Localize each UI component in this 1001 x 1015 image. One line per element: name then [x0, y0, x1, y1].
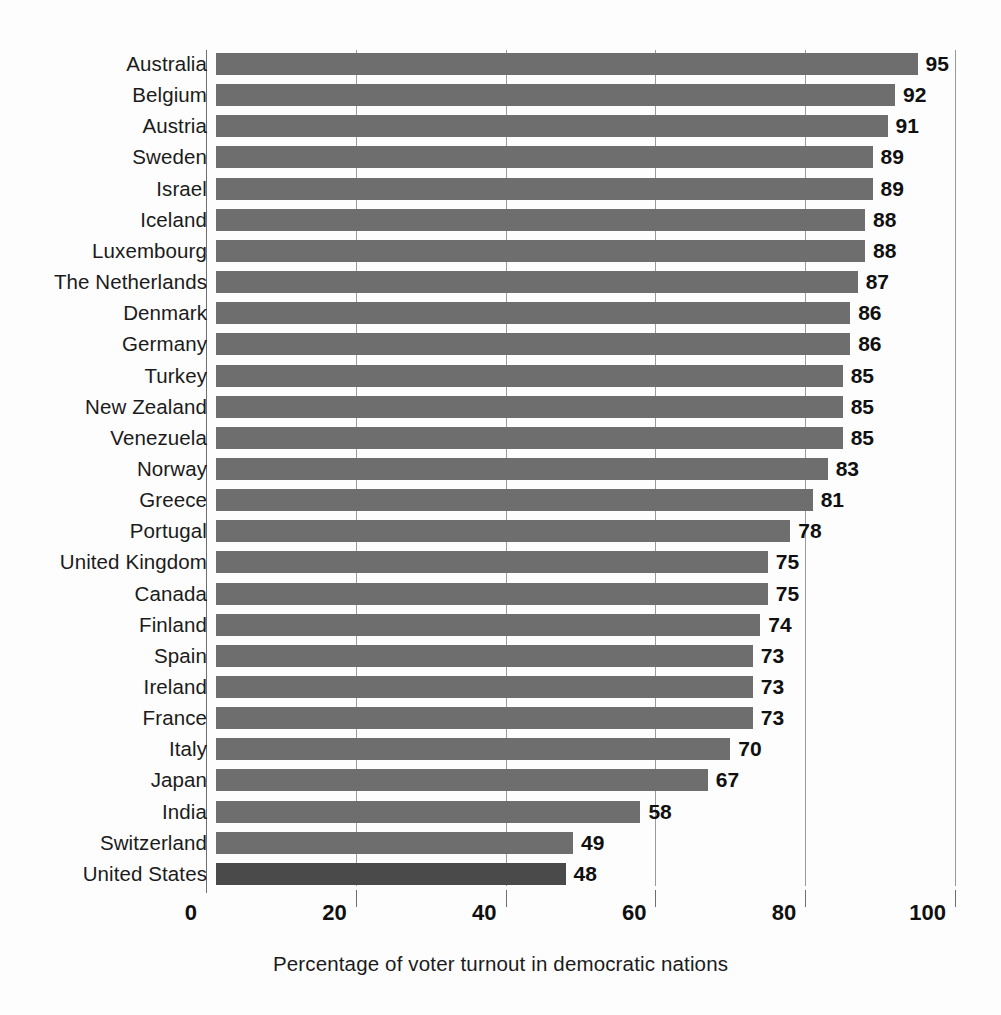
bar-value-label: 73: [761, 675, 784, 699]
bar-row: Germany86: [0, 333, 1001, 355]
bar: [216, 614, 760, 636]
bar-row: Spain73: [0, 645, 1001, 667]
bar-category-label: Japan: [151, 768, 207, 792]
bar-value-label: 89: [881, 145, 904, 169]
bar: [216, 396, 843, 418]
bar: [216, 863, 566, 885]
bar-value-label: 92: [903, 83, 926, 107]
bar-value-label: 83: [836, 457, 859, 481]
x-axis-title: Percentage of voter turnout in democrati…: [0, 952, 1001, 976]
bar-category-label: Italy: [169, 737, 207, 761]
bar-category-label: Canada: [135, 582, 207, 606]
bar-value-label: 75: [776, 582, 799, 606]
bar-category-label: Iceland: [140, 208, 207, 232]
bar: [216, 769, 708, 791]
bar-row: The Netherlands87: [0, 271, 1001, 293]
bar: [216, 209, 865, 231]
x-tick-mark-20: [356, 890, 357, 907]
bar-value-label: 58: [648, 800, 671, 824]
bar-row: Finland74: [0, 614, 1001, 636]
bar-value-label: 87: [866, 270, 889, 294]
bar-value-label: 89: [881, 177, 904, 201]
bar-category-label: United Kingdom: [60, 550, 207, 574]
bar-value-label: 78: [798, 519, 821, 543]
bar-value-label: 67: [716, 768, 739, 792]
bar-row: Ireland73: [0, 676, 1001, 698]
bar: [216, 53, 918, 75]
bar-row: France73: [0, 707, 1001, 729]
bar-row: Sweden89: [0, 146, 1001, 168]
x-tick-label-40: 40: [472, 900, 505, 926]
plot-area: Australia95Belgium92Austria91Sweden89Isr…: [0, 0, 1001, 890]
bar-category-label: Sweden: [132, 145, 207, 169]
x-tick-label-80: 80: [772, 900, 805, 926]
bar-category-label: Denmark: [123, 301, 207, 325]
bar: [216, 707, 753, 729]
bar-value-label: 73: [761, 644, 784, 668]
bar: [216, 427, 843, 449]
bar-value-label: 48: [574, 862, 597, 886]
bar-row: Turkey85: [0, 365, 1001, 387]
bar: [216, 551, 768, 573]
bar-category-label: Ireland: [144, 675, 207, 699]
bar-category-label: Venezuela: [110, 426, 207, 450]
x-tick-label-0: 0: [185, 900, 206, 926]
bar-row: Switzerland49: [0, 832, 1001, 854]
bar-value-label: 70: [738, 737, 761, 761]
bar-row: Italy70: [0, 738, 1001, 760]
bar-category-label: Switzerland: [100, 831, 207, 855]
bar-category-label: Luxembourg: [92, 239, 207, 263]
bar: [216, 271, 858, 293]
bar-category-label: Israel: [156, 177, 207, 201]
bar-row: United Kingdom75: [0, 551, 1001, 573]
bar-category-label: Turkey: [145, 364, 208, 388]
bar-category-label: Spain: [154, 644, 207, 668]
bar: [216, 676, 753, 698]
bar-row: Canada75: [0, 583, 1001, 605]
bar: [216, 801, 640, 823]
bar: [216, 645, 753, 667]
bar-row: Iceland88: [0, 209, 1001, 231]
bar-row: Israel89: [0, 178, 1001, 200]
bar-value-label: 88: [873, 208, 896, 232]
bar-category-label: Norway: [137, 457, 207, 481]
bar: [216, 302, 850, 324]
bar-category-label: Austria: [142, 114, 207, 138]
bar-category-label: Greece: [139, 488, 207, 512]
bar-value-label: 86: [858, 332, 881, 356]
bar: [216, 458, 828, 480]
bar-category-label: Germany: [122, 332, 207, 356]
x-tick-mark-40: [506, 890, 507, 907]
bar-row: Austria91: [0, 115, 1001, 137]
bar: [216, 520, 790, 542]
bar-value-label: 88: [873, 239, 896, 263]
bar-value-label: 85: [851, 364, 874, 388]
bar: [216, 832, 573, 854]
bar-row: New Zealand85: [0, 396, 1001, 418]
bar: [216, 84, 895, 106]
bar-value-label: 86: [858, 301, 881, 325]
voter-turnout-bar-chart: Australia95Belgium92Austria91Sweden89Isr…: [0, 0, 1001, 1015]
bar-category-label: United States: [83, 862, 207, 886]
bar-value-label: 85: [851, 426, 874, 450]
x-tick-label-100: 100: [909, 900, 955, 926]
bar-category-label: Portugal: [130, 519, 207, 543]
bar: [216, 489, 813, 511]
bar-row: Norway83: [0, 458, 1001, 480]
bar: [216, 738, 730, 760]
bar-category-label: Australia: [126, 52, 207, 76]
bar-row: Japan67: [0, 769, 1001, 791]
bar-category-label: India: [162, 800, 207, 824]
x-tick-label-20: 20: [322, 900, 355, 926]
bar-value-label: 49: [581, 831, 604, 855]
bar-row: Australia95: [0, 53, 1001, 75]
bar-row: Denmark86: [0, 302, 1001, 324]
x-tick-label-60: 60: [622, 900, 655, 926]
bar-row: Portugal78: [0, 520, 1001, 542]
bar-row: Venezuela85: [0, 427, 1001, 449]
bar: [216, 365, 843, 387]
bar-category-label: Finland: [139, 613, 207, 637]
bar-row: United States48: [0, 863, 1001, 885]
bar-row: Greece81: [0, 489, 1001, 511]
bar: [216, 240, 865, 262]
